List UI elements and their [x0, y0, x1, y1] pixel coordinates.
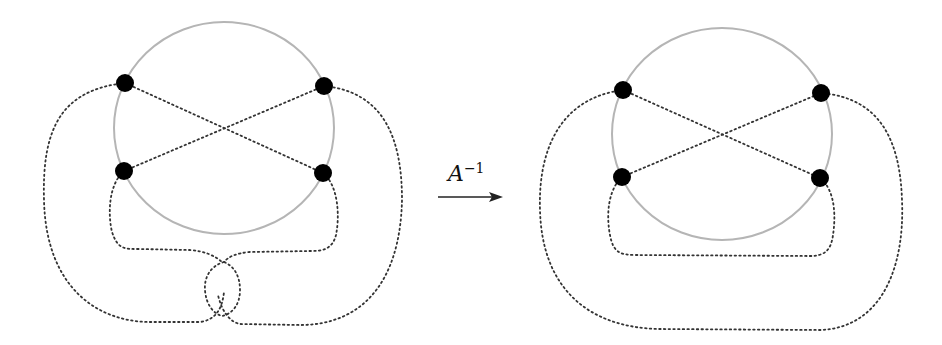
left-outer-arc-left	[44, 83, 224, 322]
left-figure	[44, 22, 402, 325]
left-node-bottom-left	[115, 162, 133, 180]
right-node-top-right	[812, 84, 830, 102]
left-outer-arc-right	[218, 86, 402, 325]
left-node-top-right	[315, 77, 333, 95]
right-node-bottom-left	[613, 168, 631, 186]
right-outer-loop	[540, 90, 902, 330]
arrow-label-exponent: −1	[464, 160, 485, 176]
left-node-bottom-right	[314, 164, 332, 182]
right-node-top-left	[614, 81, 632, 99]
left-twist-loop	[205, 262, 240, 316]
arrow-label: A−1	[448, 160, 485, 186]
arrow-label-base: A	[448, 161, 464, 186]
right-figure	[540, 28, 902, 330]
right-node-bottom-right	[811, 169, 829, 187]
right-inner-loop	[608, 177, 834, 256]
left-node-top-left	[116, 74, 134, 92]
left-inner-arc-right	[224, 173, 338, 262]
left-inner-arc-left	[110, 171, 222, 262]
left-chord-2	[124, 86, 324, 171]
transform-arrow	[438, 192, 503, 202]
